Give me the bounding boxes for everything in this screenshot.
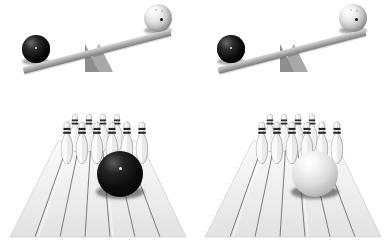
ball-highlight [119,167,122,170]
ball-finger-hole [161,10,163,12]
bowling-lane-panel-left [0,103,195,252]
ball-finger-hole [350,9,352,11]
black-bowling-ball [217,35,245,63]
black-bowling-ball [22,35,50,63]
ball-highlight [230,47,232,49]
bowling-pin [270,121,284,165]
ball-finger-hole [155,9,157,11]
bowling-pin [60,121,74,165]
bowling-pin [75,121,89,165]
bowling-lane-panel-right [195,103,390,252]
white-bowling-ball [292,151,338,197]
comparison-figure [0,0,390,252]
ball-finger-hole [355,18,358,21]
white-bowling-ball [144,4,172,32]
ball-finger-hole [160,18,163,21]
bowling-pin [255,121,269,165]
ball-finger-hole [356,10,358,12]
black-bowling-ball [97,151,143,197]
ball-highlight [35,47,37,49]
white-bowling-ball [339,4,367,32]
balance-scale-panel-right [195,0,390,103]
balance-scale-panel-left [0,0,195,103]
